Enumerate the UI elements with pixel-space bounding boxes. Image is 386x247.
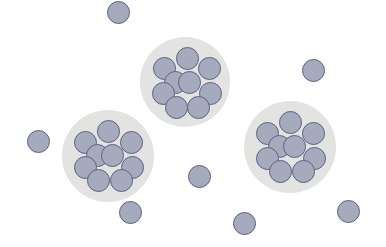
cluster-top-particle bbox=[178, 71, 201, 94]
cluster-left-particle bbox=[87, 169, 110, 192]
cluster-left-particle bbox=[110, 169, 133, 192]
free-particle bbox=[188, 165, 211, 188]
free-particle bbox=[119, 201, 142, 224]
cluster-right-particle bbox=[292, 160, 315, 183]
cluster-right-particle bbox=[283, 135, 306, 158]
cluster-top-particle bbox=[198, 57, 221, 80]
free-particle bbox=[107, 1, 130, 24]
cluster-left-particle bbox=[101, 144, 124, 167]
cluster-right-particle bbox=[279, 111, 302, 134]
free-particle bbox=[233, 212, 256, 235]
free-particle bbox=[302, 59, 325, 82]
cluster-top-particle bbox=[187, 96, 210, 119]
cluster-top-particle bbox=[165, 96, 188, 119]
free-particle bbox=[337, 200, 360, 223]
free-particle bbox=[27, 130, 50, 153]
particle-diagram bbox=[0, 0, 386, 247]
cluster-right-particle bbox=[269, 160, 292, 183]
cluster-left-particle bbox=[97, 120, 120, 143]
cluster-top-particle bbox=[176, 47, 199, 70]
